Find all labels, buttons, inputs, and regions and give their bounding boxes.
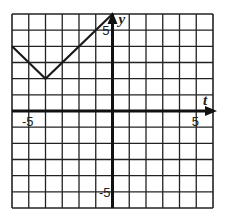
y-axis-label: y <box>117 11 126 27</box>
x-tick-label-5: 5 <box>192 114 199 129</box>
coordinate-plane: y t -5 5 5 -5 <box>0 0 225 224</box>
axes <box>12 14 213 208</box>
y-tick-label-5: 5 <box>102 23 109 38</box>
y-tick-label-neg5: -5 <box>99 185 111 200</box>
x-tick-label-neg5: -5 <box>22 114 34 129</box>
